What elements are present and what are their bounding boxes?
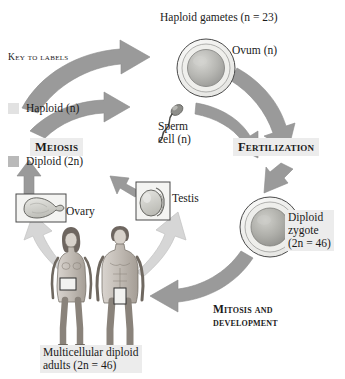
label-diploid-zygote: Diploid zygote (2n = 46) xyxy=(285,210,334,251)
key-label-haploid: Haploid (n) xyxy=(26,102,79,115)
key-title: Key to labels xyxy=(8,52,83,63)
label-multicellular-diploid-adults: Multicellular diploid adults (2n = 46) xyxy=(40,345,142,373)
label-testis: Testis xyxy=(172,192,199,205)
arrow-fertilization-to-zygote xyxy=(264,163,293,193)
key-item-haploid: Haploid (n) xyxy=(8,102,83,115)
label-fertilization: Fertilization xyxy=(233,138,319,156)
key-item-diploid: Diploid (2n) xyxy=(8,155,83,168)
label-haploid-gametes: Haploid gametes (n = 23) xyxy=(160,11,278,24)
ovum-cell xyxy=(177,39,235,97)
key-to-labels: Key to labels Haploid (n) Diploid (2n) xyxy=(8,16,83,204)
diploid-swatch xyxy=(8,156,19,167)
label-ovum: Ovum (n) xyxy=(232,44,277,57)
label-meiosis: Meiosis xyxy=(30,138,83,156)
haploid-swatch xyxy=(8,103,19,114)
label-ovary: Ovary xyxy=(66,205,95,218)
male-adult-figure xyxy=(97,226,143,346)
testis-illustration xyxy=(136,182,170,220)
label-sperm-cell: Sperm cell (n) xyxy=(158,120,191,146)
life-cycle-diagram: Key to labels Haploid (n) Diploid (2n) H… xyxy=(0,0,345,379)
arrow-male-to-testis xyxy=(137,212,186,277)
label-mitosis-and-development: Mitosis and development xyxy=(213,303,278,329)
female-adult-figure xyxy=(52,227,91,345)
key-label-diploid: Diploid (2n) xyxy=(26,155,83,168)
